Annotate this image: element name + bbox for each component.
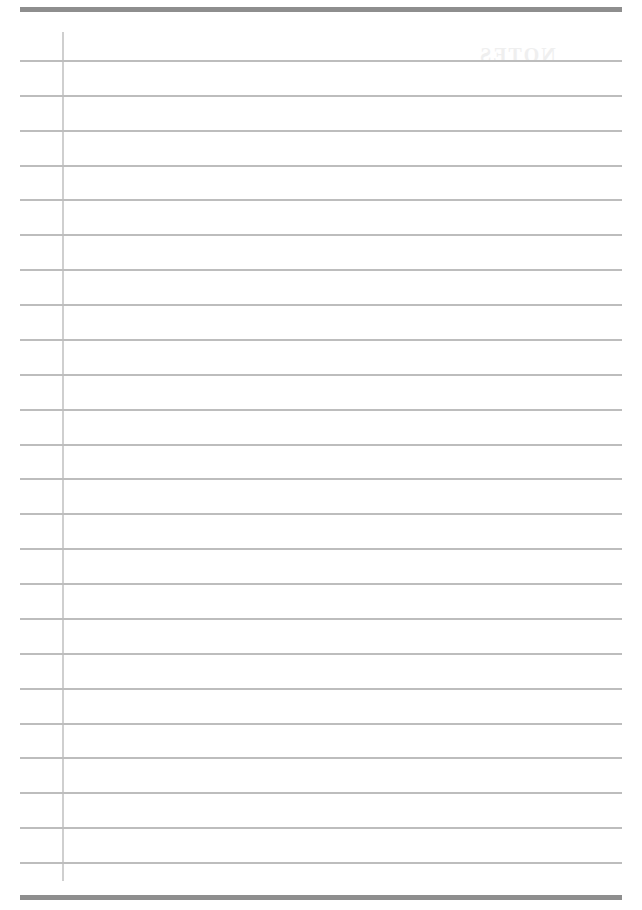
ruled-line <box>20 583 622 585</box>
show-through-heading: NOTES <box>478 44 556 67</box>
ruled-line <box>20 60 622 62</box>
ruled-line <box>20 374 622 376</box>
ruled-line <box>20 95 622 97</box>
ruled-line <box>20 130 622 132</box>
ruled-line <box>20 827 622 829</box>
ruled-line <box>20 478 622 480</box>
ruled-line <box>20 688 622 690</box>
top-border-bar <box>20 7 622 12</box>
ruled-line <box>20 618 622 620</box>
ruled-line <box>20 757 622 759</box>
ruled-line <box>20 339 622 341</box>
ruled-line <box>20 723 622 725</box>
ruled-line <box>20 548 622 550</box>
ruled-line <box>20 304 622 306</box>
margin-line <box>62 32 64 881</box>
ruled-line <box>20 513 622 515</box>
ruled-line <box>20 165 622 167</box>
ruled-line <box>20 199 622 201</box>
notebook-page: NOTES <box>0 0 642 910</box>
ruled-line <box>20 653 622 655</box>
ruled-line <box>20 234 622 236</box>
ruled-line <box>20 409 622 411</box>
bottom-border-bar <box>20 895 622 900</box>
ruled-line <box>20 269 622 271</box>
ruled-line <box>20 444 622 446</box>
ruled-line <box>20 792 622 794</box>
ruled-line <box>20 862 622 864</box>
